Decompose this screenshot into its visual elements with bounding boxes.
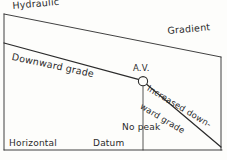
label-horizontal: Horizontal <box>9 139 57 148</box>
label-air-valve: A.V. <box>133 64 150 73</box>
hydraulic-gradient-diagram: Hydraulic Gradient Downward grade A.V. I… <box>0 0 227 160</box>
air-valve-circle-icon <box>138 77 147 86</box>
hydraulic-gradient-line <box>4 14 221 57</box>
label-datum: Datum <box>93 139 124 148</box>
label-no-peak: No peak <box>122 123 160 132</box>
